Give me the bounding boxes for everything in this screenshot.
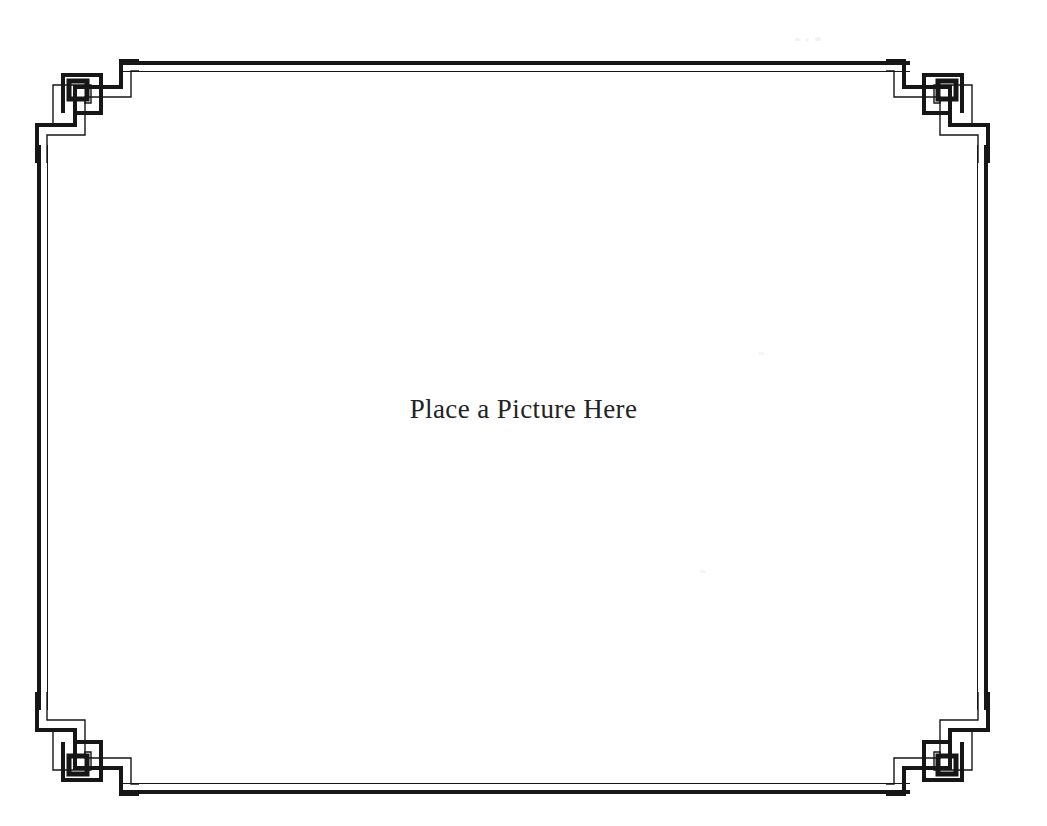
scan-artifact [806,39,809,41]
top-left-ornament [29,53,139,163]
frame-rule-bottom-outer [121,790,910,794]
bottom-left-ornament [29,692,139,802]
frame-rule-right-outer [984,145,988,710]
frame-rule-top-outer [121,61,910,65]
frame-rule-top-inner [121,71,910,72]
bottom-right-ornament [886,692,996,802]
frame-rule-left-outer [37,145,41,710]
scan-artifact [795,38,800,41]
frame-rule-bottom-inner [121,783,910,784]
frame-rule-left-inner [47,145,48,710]
top-right-ornament [886,53,996,163]
scan-artifact [815,37,821,41]
document-page: Place a Picture Here [0,0,1047,826]
frame-rule-right-inner [977,145,978,710]
decorative-frame [37,61,988,794]
